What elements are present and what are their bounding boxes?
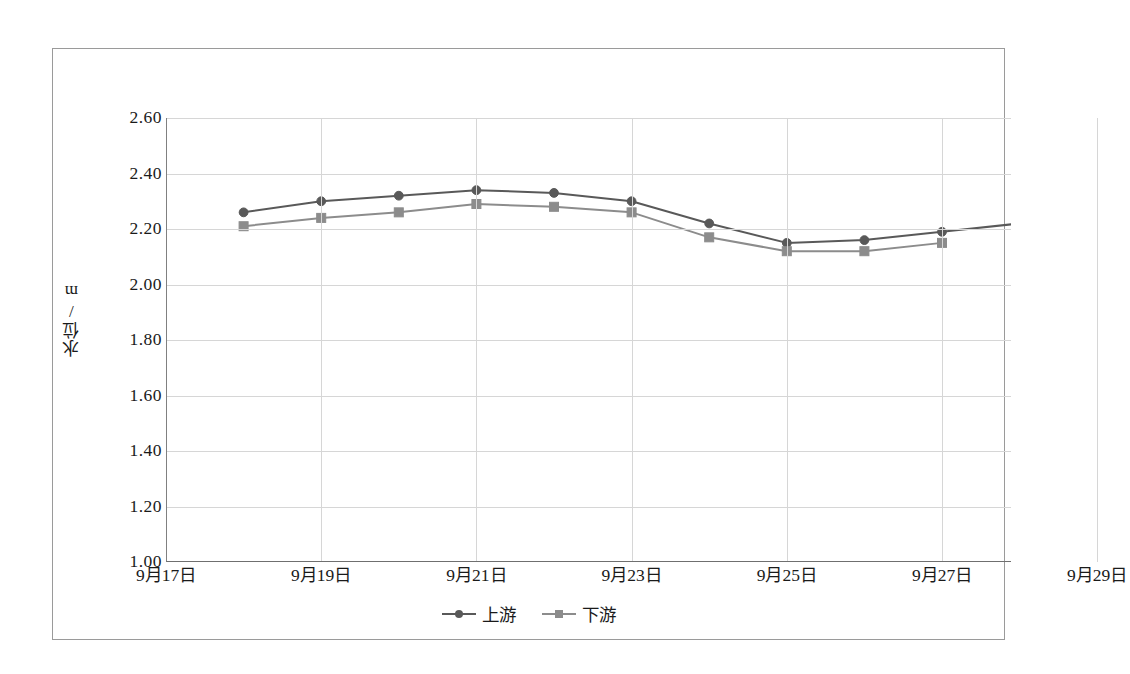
y-axis-tick-label: 2.60 — [92, 109, 162, 127]
plot-area — [166, 118, 1011, 562]
legend-item-上游[interactable]: 上游 — [442, 601, 516, 626]
x-axis-tick-label: 9月17日 — [111, 566, 221, 585]
legend-label: 上游 — [480, 601, 516, 626]
x-axis-tick-label: 9月21日 — [421, 566, 531, 585]
legend-swatch-icon — [442, 608, 476, 620]
y-axis-tick-label: 1.40 — [92, 442, 162, 460]
y-axis-tick-label: 1.60 — [92, 387, 162, 405]
y-axis-tick-labels: 1.001.201.401.601.802.002.202.402.60 — [88, 118, 162, 562]
x-axis-tick-label: 9月19日 — [266, 566, 376, 585]
y-axis-title: 水位/m — [59, 281, 83, 357]
y-axis-tick-label: 2.00 — [92, 276, 162, 294]
x-axis-tick-labels: 9月17日9月19日9月21日9月23日9月25日9月27日9月29日 — [166, 566, 1011, 594]
y-axis-tick-label: 1.80 — [92, 331, 162, 349]
legend-swatch-icon — [542, 608, 576, 620]
plot-frame — [166, 118, 1011, 562]
legend-label: 下游 — [580, 601, 616, 626]
x-axis-tick-label: 9月27日 — [887, 566, 997, 585]
y-axis-tick-label: 2.40 — [92, 165, 162, 183]
chart-figure: 水位/m 1.001.201.401.601.802.002.202.402.6… — [52, 48, 1005, 640]
x-axis-tick-label: 9月25日 — [732, 566, 842, 585]
y-axis-tick-label: 1.20 — [92, 498, 162, 516]
chart-legend: 上游下游 — [53, 601, 1004, 626]
y-axis-tick-label: 2.20 — [92, 220, 162, 238]
gridline-vertical — [1097, 118, 1098, 562]
x-axis-tick-label: 9月29日 — [1042, 566, 1130, 585]
legend-item-下游[interactable]: 下游 — [542, 601, 616, 626]
x-axis-tick-label: 9月23日 — [577, 566, 687, 585]
